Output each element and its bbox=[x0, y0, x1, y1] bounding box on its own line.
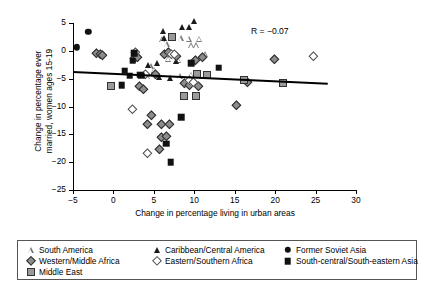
x-axis-tick-label: 30 bbox=[351, 195, 360, 205]
x-axis-tick: 0 bbox=[113, 190, 114, 194]
data-point bbox=[147, 153, 154, 160]
data-point bbox=[178, 114, 185, 121]
data-point bbox=[202, 58, 209, 65]
x-axis-tick-label: 20 bbox=[270, 195, 279, 205]
data-point bbox=[186, 36, 192, 42]
legend-marker-diamond-open-icon bbox=[152, 257, 161, 266]
legend-marker-circle-filled-icon bbox=[283, 246, 292, 255]
chart-legend: South AmericaCaribbean/Central AmericaFo… bbox=[17, 240, 417, 280]
y-axis-tick-label: −10 bbox=[52, 101, 66, 111]
data-point bbox=[193, 42, 199, 48]
data-point bbox=[147, 125, 154, 132]
data-point bbox=[103, 56, 110, 63]
data-point bbox=[178, 35, 184, 41]
data-point bbox=[168, 159, 175, 166]
data-point bbox=[164, 41, 170, 47]
data-point bbox=[188, 60, 195, 67]
x-axis-tick-label: −5 bbox=[68, 195, 78, 205]
data-point bbox=[274, 59, 281, 66]
y-axis-tick-label: 5 bbox=[61, 17, 66, 27]
data-point bbox=[154, 60, 160, 66]
x-axis-tick: 15 bbox=[235, 190, 236, 194]
data-point bbox=[247, 83, 254, 90]
y-axis-tick-label: 0 bbox=[61, 45, 66, 55]
x-axis-tick-label: 25 bbox=[311, 195, 320, 205]
data-point bbox=[193, 83, 200, 90]
x-axis-tick-label: 15 bbox=[230, 195, 239, 205]
data-point bbox=[132, 109, 139, 116]
plot-area: R = −0.07 bbox=[73, 23, 356, 190]
legend-item-label: South-central/South-eastern Asia bbox=[296, 256, 418, 266]
data-point bbox=[170, 125, 177, 132]
x-axis-tick-label: 0 bbox=[111, 195, 116, 205]
x-axis-tick: −5 bbox=[73, 190, 74, 194]
legend-item-label: Western/Middle Africa bbox=[39, 256, 120, 266]
legend-marker-square-filled-icon bbox=[283, 257, 292, 266]
legend-item-label: Eastern/Southern Africa bbox=[165, 256, 253, 266]
data-point bbox=[314, 57, 321, 64]
legend-item-middle-east[interactable]: Middle East bbox=[26, 267, 82, 277]
y-axis-tick-label: −15 bbox=[52, 128, 66, 138]
data-point bbox=[131, 50, 138, 57]
legend-item-caribbean-central-america[interactable]: Caribbean/Central America bbox=[152, 245, 265, 255]
x-axis-tick: 30 bbox=[356, 190, 357, 194]
legend-item-label: Former Soviet Asia bbox=[296, 245, 366, 255]
legend-item-south-central-south-eastern-asia[interactable]: South-central/South-eastern Asia bbox=[283, 256, 418, 266]
x-axis-line: −5051015202530 bbox=[73, 190, 357, 191]
x-axis-tick: 5 bbox=[154, 190, 155, 194]
legend-item-south-america[interactable]: South America bbox=[26, 245, 93, 255]
data-point bbox=[130, 58, 137, 65]
data-point bbox=[145, 62, 151, 68]
legend-item-western-middle-africa[interactable]: Western/Middle Africa bbox=[26, 256, 120, 266]
data-point bbox=[180, 92, 188, 100]
x-axis-tick-label: 10 bbox=[190, 195, 199, 205]
data-point bbox=[236, 105, 243, 112]
legend-marker-triangle-open-icon bbox=[26, 246, 35, 255]
correlation-annotation: R = −0.07 bbox=[251, 26, 289, 36]
data-point bbox=[168, 33, 176, 41]
legend-item-eastern-southern-africa[interactable]: Eastern/Southern Africa bbox=[152, 256, 253, 266]
x-axis-tick: 25 bbox=[316, 190, 317, 194]
data-point bbox=[144, 89, 151, 96]
x-axis-tick-label: 5 bbox=[152, 195, 157, 205]
data-point bbox=[118, 82, 125, 89]
x-axis-tick: 20 bbox=[275, 190, 276, 194]
x-axis-title: Change in percentage living in urban are… bbox=[73, 208, 357, 218]
data-point bbox=[163, 140, 170, 147]
legend-item-label: South America bbox=[39, 245, 93, 255]
data-point bbox=[186, 24, 192, 30]
data-point bbox=[85, 29, 91, 35]
data-point bbox=[107, 82, 115, 90]
y-axis-title-container: Change in percentage ever married, women… bbox=[0, 0, 40, 200]
data-point bbox=[160, 28, 166, 34]
data-point bbox=[192, 92, 200, 100]
legend-marker-triangle-filled-icon bbox=[152, 246, 161, 255]
data-point bbox=[215, 64, 222, 71]
data-point bbox=[175, 54, 182, 61]
data-point bbox=[159, 150, 166, 157]
legend-item-label: Caribbean/Central America bbox=[165, 245, 265, 255]
data-point bbox=[179, 24, 185, 30]
x-axis-tick: 10 bbox=[194, 190, 195, 194]
data-point bbox=[196, 36, 202, 42]
legend-marker-diamond-gray-icon bbox=[26, 257, 35, 266]
legend-marker-square-gray-icon bbox=[26, 268, 35, 277]
y-axis-tick-label: −5 bbox=[56, 73, 66, 83]
data-point bbox=[151, 115, 158, 122]
data-point bbox=[74, 44, 80, 50]
legend-item-label: Middle East bbox=[39, 267, 82, 277]
legend-item-former-soviet-asia[interactable]: Former Soviet Asia bbox=[283, 245, 366, 255]
y-axis-tick-label: −25 bbox=[52, 184, 66, 194]
y-axis-tick-label: −20 bbox=[52, 156, 66, 166]
data-point bbox=[161, 35, 167, 41]
